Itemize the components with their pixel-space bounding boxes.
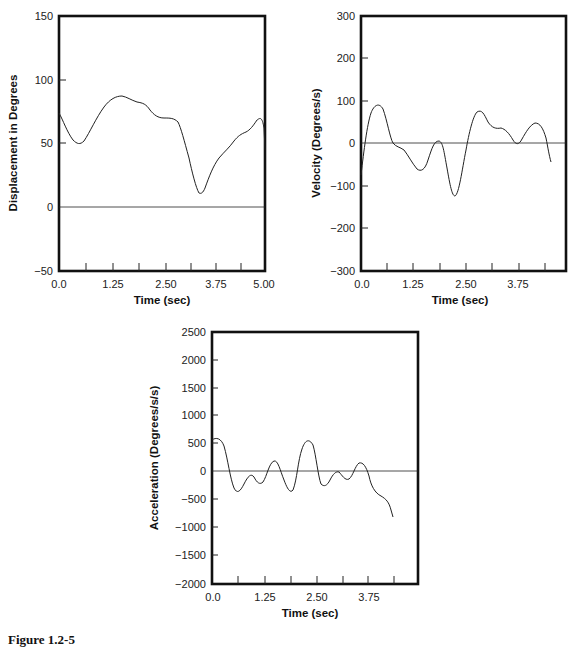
y-tick-label: −200	[330, 222, 355, 234]
acceleration-curve	[212, 438, 393, 517]
y-tick-label: 0	[47, 201, 53, 213]
velocity-chart: 300 200 100 0 −100 −200 −300 0.0 1.25 2.…	[310, 10, 566, 306]
x-tick-label: 1.25	[102, 278, 123, 290]
x-tick-label: 0.0	[354, 278, 369, 290]
x-tick-label: 3.75	[358, 591, 379, 603]
displacement-chart: 150 100 50 0 −50 0.0 1.25 2.50 3.75 5.00…	[7, 10, 275, 306]
y-tick-label: 200	[337, 52, 355, 64]
x-tick-label: 0.0	[205, 591, 220, 603]
y-tick-label: 2500	[182, 326, 206, 338]
x-tick-label: 5.00	[253, 278, 274, 290]
acceleration-x-axis-title: Time (sec)	[282, 607, 339, 619]
y-tick-label: −1500	[175, 549, 206, 561]
y-tick-label: 50	[41, 137, 53, 149]
displacement-curve	[59, 96, 265, 193]
figure-caption: Figure 1.2-5	[8, 632, 75, 648]
x-tick-label: 3.75	[507, 278, 528, 290]
y-tick-label: −500	[181, 493, 206, 505]
y-tick-label: 500	[188, 437, 206, 449]
velocity-plot-frame	[361, 16, 566, 271]
acceleration-chart: 2500 2000 1500 1000 500 0 −500 −1000 −15…	[148, 326, 418, 619]
velocity-y-axis-title: Velocity (Degrees/s)	[310, 88, 322, 197]
y-tick-label: −2000	[175, 578, 206, 590]
y-tick-label: 0	[349, 137, 355, 149]
y-tick-label: 1000	[182, 409, 206, 421]
y-tick-label: 2000	[182, 354, 206, 366]
y-tick-label: −50	[34, 265, 53, 277]
y-tick-label: −1000	[175, 521, 206, 533]
displacement-y-axis-title: Displacement in Degrees	[7, 75, 19, 212]
x-tick-label: 2.50	[455, 278, 476, 290]
y-tick-label: 300	[337, 10, 355, 22]
x-tick-label: 3.75	[205, 278, 226, 290]
x-tick-label: 1.25	[402, 278, 423, 290]
acceleration-y-axis-title: Acceleration (Degrees/s/s)	[148, 386, 160, 531]
y-tick-label: 150	[35, 10, 53, 22]
acceleration-plot-frame	[212, 332, 418, 584]
y-tick-label: 0	[200, 465, 206, 477]
y-tick-label: 1500	[182, 382, 206, 394]
x-tick-label: 2.50	[306, 591, 327, 603]
y-tick-label: −300	[330, 265, 355, 277]
x-tick-label: 1.25	[254, 591, 275, 603]
y-tick-label: 100	[337, 95, 355, 107]
displacement-plot-frame	[59, 16, 265, 271]
velocity-curve	[361, 105, 551, 196]
displacement-x-axis-title: Time (sec)	[134, 294, 191, 306]
x-tick-label: 0.0	[51, 278, 66, 290]
x-tick-label: 2.50	[155, 278, 176, 290]
y-tick-label: 100	[35, 74, 53, 86]
velocity-x-axis-title: Time (sec)	[432, 294, 489, 306]
y-tick-label: −100	[330, 180, 355, 192]
